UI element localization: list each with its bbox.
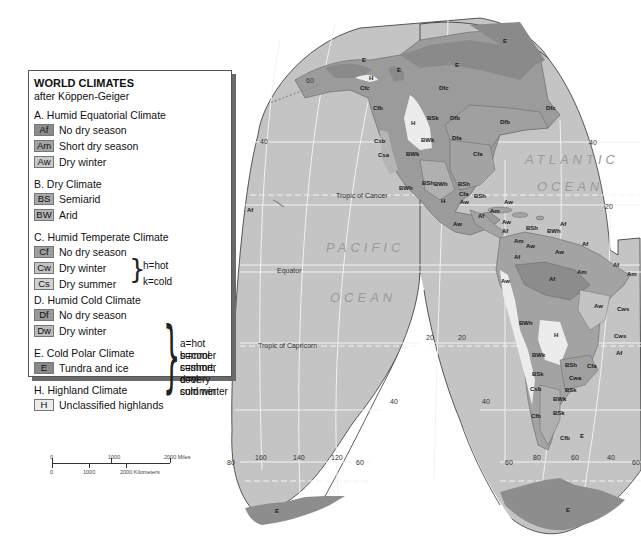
legend-item-label: Dry winter <box>59 262 106 274</box>
climate-label: Aw <box>502 219 511 225</box>
ocean-label-pacific: PACIFIC <box>326 240 404 255</box>
climate-label: Csb <box>374 138 386 144</box>
climate-label: Aw <box>504 199 513 205</box>
climate-label: BWk <box>532 352 546 358</box>
long-label: 60 <box>632 459 640 466</box>
climate-label: BWk <box>421 137 435 143</box>
climate-label: H <box>369 75 373 81</box>
legend-item-dw: Dw Dry winter <box>34 323 225 339</box>
climate-label: BSk <box>427 115 439 121</box>
climate-label: E <box>566 507 570 513</box>
swatch-e: E <box>34 362 54 374</box>
legend-item-bs: BS Semiarid <box>34 191 225 207</box>
lat-label: 20 <box>605 203 613 210</box>
climate-label: Csa <box>378 152 390 158</box>
climate-label: Cfa <box>473 151 483 157</box>
subtype-note-d: d=very cold winter <box>180 374 231 398</box>
long-label: 80 <box>227 459 235 466</box>
legend-item-label: Arid <box>59 209 78 221</box>
long-label: 80 <box>533 454 541 461</box>
ocean-label-pacific-ocean: OCEAN <box>330 290 396 305</box>
climate-label: Cfb <box>531 413 541 419</box>
legend-panel: WORLD CLIMATES after Köppen-Geiger A. Hu… <box>28 70 232 377</box>
climate-label: Csb <box>530 386 542 392</box>
legend-item-h: H Unclassified highlands <box>34 397 225 413</box>
lat-label: 60 <box>306 77 314 84</box>
dry-note-hot: h=hot <box>143 260 168 272</box>
legend-item-label: Short dry season <box>59 140 138 152</box>
lat-label: 20 <box>458 334 466 341</box>
climate-label: BSk <box>532 371 544 377</box>
legend-item-label: Dry winter <box>59 325 106 337</box>
climate-label: Af <box>613 262 620 268</box>
climate-label: Cws <box>614 333 627 339</box>
climate-label: Aw <box>453 221 462 227</box>
long-label: 40 <box>607 454 615 461</box>
climate-label: BSk <box>553 410 565 416</box>
scale-miles-1000: 1000 <box>108 454 120 460</box>
legend-item-label: Dry summer <box>59 278 116 290</box>
tropic-of-cancer-label: Tropic of Cancer <box>336 192 388 200</box>
legend-subtitle: after Köppen-Geiger <box>34 90 225 103</box>
climate-label: Af <box>502 228 509 234</box>
climate-label: Am <box>627 271 637 277</box>
climate-label: Aw <box>460 199 469 205</box>
climate-label: Dfb <box>500 119 510 125</box>
swatch-dw: Dw <box>34 325 54 337</box>
legend-item-label: Dry winter <box>59 156 106 168</box>
swatch-aw: Aw <box>34 156 54 168</box>
climate-label: Af <box>560 221 567 227</box>
lat-label: 40 <box>482 398 490 405</box>
long-label: 60 <box>505 459 513 466</box>
lat-label: 40 <box>390 398 398 405</box>
swatch-bs: BS <box>34 193 54 205</box>
climate-label: BWh <box>399 185 413 191</box>
climate-label: Am <box>514 238 524 244</box>
climate-label: BSh <box>422 180 434 186</box>
long-label: 120 <box>331 454 343 461</box>
climate-label: Dfc <box>546 105 556 111</box>
swatch-cs: Cs <box>34 278 54 290</box>
legend-group-heading: B. Dry Climate <box>34 178 225 191</box>
climate-label: Aw <box>501 278 510 284</box>
legend-group-heading: D. Humid Cold Climate <box>34 294 225 307</box>
long-label: 60 <box>356 459 364 466</box>
dry-note-cold: k=cold <box>143 276 172 288</box>
climate-label: E <box>580 433 584 439</box>
legend-item-label: No dry season <box>59 309 127 321</box>
climate-label: BSh <box>474 193 486 199</box>
scale-miles-2000: 2000 Miles <box>164 454 191 460</box>
swatch-df: Df <box>34 309 54 321</box>
climate-label: Am <box>490 208 500 214</box>
tropic-of-capricorn-label: Tropic of Capricorn <box>258 342 317 350</box>
lat-label: 40 <box>260 138 268 145</box>
climate-label: BSh <box>565 362 577 368</box>
swatch-cw: Cw <box>34 262 54 274</box>
climate-label: BWk <box>406 151 420 157</box>
long-label: 160 <box>255 454 267 461</box>
swatch-af: Af <box>34 124 54 136</box>
climate-label: Aw <box>526 243 535 249</box>
legend-title: WORLD CLIMATES <box>34 77 225 90</box>
legend-item-label: No dry season <box>59 124 127 136</box>
swatch-bw: BW <box>34 209 54 221</box>
scale-km-2000: 2000 Kilometers <box>120 469 160 475</box>
climate-label: E <box>275 508 279 514</box>
climate-label: Cfa <box>459 191 469 197</box>
climate-label: Dfa <box>452 135 462 141</box>
climate-label: Cfc <box>360 85 370 91</box>
climate-label: Dfc <box>439 85 449 91</box>
scale-km-0: 0 <box>50 469 53 475</box>
swatch-h: H <box>34 399 54 411</box>
climate-label: Cws <box>617 306 630 312</box>
legend-item-label: Semiarid <box>59 193 100 205</box>
climate-label: Af <box>514 254 521 260</box>
climate-label: Aw <box>555 249 564 255</box>
legend-item-bw: BW Arid <box>34 207 225 223</box>
climate-label: H <box>441 198 445 204</box>
climate-label: BWk <box>553 396 567 402</box>
climate-label: Af <box>582 241 589 247</box>
legend-item-label: Tundra and ice <box>59 362 129 374</box>
climate-label: BWh <box>547 228 561 234</box>
climate-label: E <box>362 57 366 63</box>
